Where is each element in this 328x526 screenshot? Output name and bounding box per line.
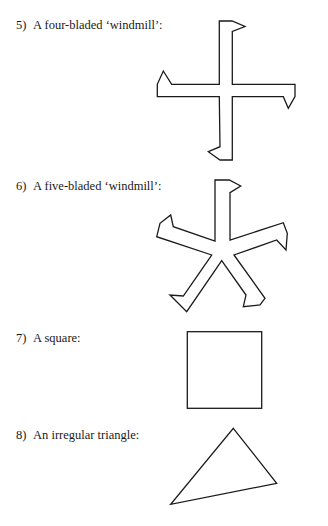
four-bladed-windmill-shape — [157, 21, 295, 160]
figures-canvas — [0, 0, 328, 526]
five-bladed-windmill-shape — [157, 180, 288, 312]
irregular-triangle-shape — [171, 428, 277, 504]
square-shape — [187, 332, 261, 409]
